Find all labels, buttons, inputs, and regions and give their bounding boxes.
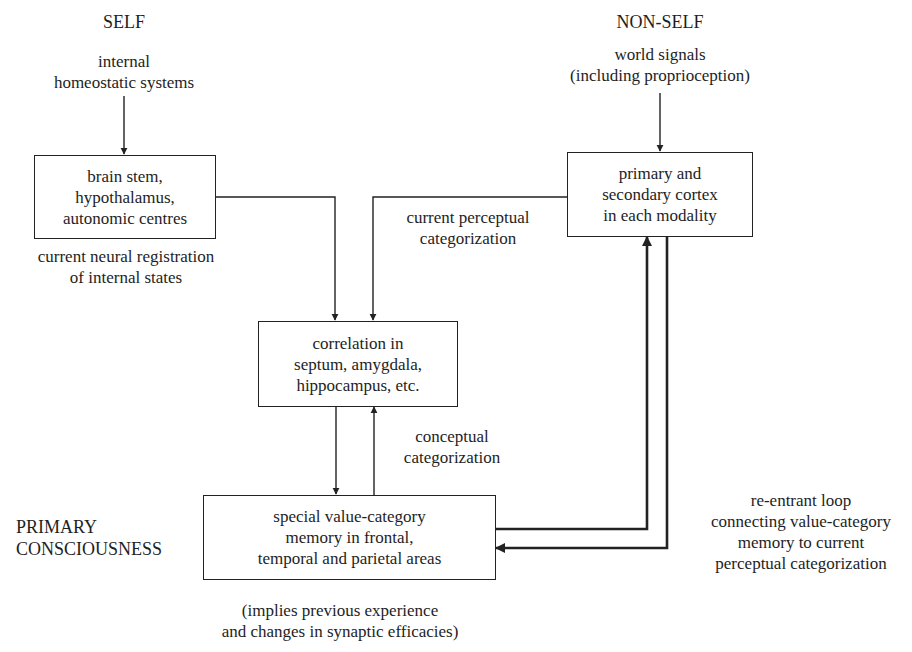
brain-stem-line3: autonomic centres bbox=[63, 208, 187, 229]
correlation-line1: correlation in bbox=[312, 333, 403, 354]
perceptual-categorization-label: current perceptual categorization bbox=[383, 207, 553, 249]
memory-box: special value-category memory in frontal… bbox=[203, 495, 496, 580]
correlation-box: correlation in septum, amygdala, hippoca… bbox=[258, 321, 458, 407]
reentrant-line4: perceptual categorization bbox=[690, 553, 912, 574]
heading-pc-line1: PRIMARY bbox=[16, 516, 162, 538]
reentrant-line2: connecting value-category bbox=[690, 511, 912, 532]
self-input-line2: homeostatic systems bbox=[24, 72, 224, 93]
conceptual-line1: conceptual bbox=[382, 426, 522, 447]
implies-label: (implies previous experience and changes… bbox=[190, 600, 490, 642]
implies-line2: and changes in synaptic efficacies) bbox=[190, 621, 490, 642]
brain-stem-box: brain stem, hypothalamus, autonomic cent… bbox=[34, 155, 216, 239]
internal-states-line1: current neural registration bbox=[6, 246, 246, 267]
cortex-line2: secondary cortex bbox=[602, 184, 718, 205]
implies-line1: (implies previous experience bbox=[190, 600, 490, 621]
heading-non-self-text: NON-SELF bbox=[595, 12, 725, 33]
heading-self: SELF bbox=[94, 12, 154, 33]
cortex-box: primary and secondary cortex in each mod… bbox=[567, 152, 753, 237]
memory-line1: special value-category bbox=[273, 506, 425, 527]
internal-states-label: current neural registration of internal … bbox=[6, 246, 246, 288]
self-input-label: internal homeostatic systems bbox=[24, 51, 224, 93]
brain-stem-line2: hypothalamus, bbox=[75, 187, 175, 208]
reentrant-line3: memory to current bbox=[690, 532, 912, 553]
heading-pc-line2: CONSCIOUSNESS bbox=[16, 538, 162, 560]
heading-self-text: SELF bbox=[94, 12, 154, 33]
perceptual-line1: current perceptual bbox=[383, 207, 553, 228]
non-self-input-line2: (including proprioception) bbox=[520, 65, 800, 86]
reentrant-loop-label: re-entrant loop connecting value-categor… bbox=[690, 490, 912, 574]
arrow-reentrant-memory-to-cortex bbox=[495, 237, 647, 529]
non-self-input-label: world signals (including proprioception) bbox=[520, 44, 800, 86]
perceptual-line2: categorization bbox=[383, 228, 553, 249]
correlation-line2: septum, amygdala, bbox=[294, 354, 422, 375]
conceptual-categorization-label: conceptual categorization bbox=[382, 426, 522, 468]
heading-primary-consciousness: PRIMARY CONSCIOUSNESS bbox=[16, 516, 162, 560]
correlation-line3: hippocampus, etc. bbox=[296, 375, 419, 396]
cortex-line3: in each modality bbox=[603, 205, 716, 226]
self-input-line1: internal bbox=[24, 51, 224, 72]
reentrant-line1: re-entrant loop bbox=[690, 490, 912, 511]
cortex-line1: primary and bbox=[619, 163, 702, 184]
memory-line2: memory in frontal, bbox=[286, 527, 414, 548]
conceptual-line2: categorization bbox=[382, 447, 522, 468]
arrow-reentrant-cortex-to-memory bbox=[496, 236, 667, 548]
heading-non-self: NON-SELF bbox=[595, 12, 725, 33]
brain-stem-line1: brain stem, bbox=[87, 166, 163, 187]
memory-line3: temporal and parietal areas bbox=[258, 548, 442, 569]
internal-states-line2: of internal states bbox=[6, 267, 246, 288]
non-self-input-line1: world signals bbox=[520, 44, 800, 65]
